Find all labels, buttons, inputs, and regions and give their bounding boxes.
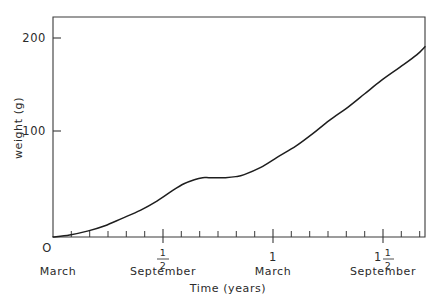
x-axis-minor-ticks: [71, 231, 419, 237]
chart-canvas: 200 100 weight (g) O: [0, 0, 444, 299]
x-tick-one-and-half-numerator: 1: [385, 247, 392, 258]
x-axis-major-ticks: [163, 229, 383, 243]
plot-border: [53, 17, 425, 237]
x-month-label-september-1: September: [130, 265, 196, 278]
x-axis-title: Time (years): [189, 282, 266, 295]
axes-frame: [53, 17, 425, 237]
origin-label: O: [42, 241, 52, 255]
y-axis-title: weight (g): [12, 97, 25, 159]
y-tick-label-200: 200: [22, 31, 46, 45]
x-month-label-september-3: September: [350, 265, 416, 278]
x-tick-one-and-half-whole: 1: [374, 250, 382, 264]
y-tick-label-100: 100: [22, 124, 46, 138]
x-month-label-march-2: March: [255, 265, 292, 278]
x-tick-half-numerator: 1: [160, 247, 167, 258]
growth-curve-figure: 200 100 weight (g) O: [0, 0, 444, 299]
x-month-label-march-0: March: [40, 265, 77, 278]
growth-curve-line: [53, 47, 425, 237]
x-tick-label-one: 1: [269, 250, 277, 264]
y-axis-ticks: [53, 38, 61, 131]
